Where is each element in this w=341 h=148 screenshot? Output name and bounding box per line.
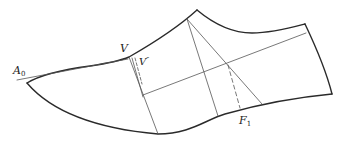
peak-line-1 bbox=[187, 19, 218, 116]
shoe-outline-bottom bbox=[27, 83, 332, 134]
label-f1-sub: 1 bbox=[247, 120, 251, 128]
peak-line-2 bbox=[187, 19, 262, 104]
label-a0: A0 bbox=[13, 65, 25, 78]
shoe-pattern-diagram bbox=[0, 0, 341, 148]
shoe-outline-top-front bbox=[27, 10, 197, 83]
label-v-prime-sup: ″ bbox=[146, 55, 149, 64]
a0-reference-line bbox=[17, 59, 128, 80]
label-v-main: V bbox=[120, 42, 128, 55]
label-v: V bbox=[120, 43, 128, 54]
label-a0-sub: 0 bbox=[21, 70, 25, 78]
shoe-outline-heel bbox=[305, 24, 332, 94]
f1-dashed-line bbox=[228, 65, 240, 108]
label-f1: F1 bbox=[239, 115, 251, 128]
v-line bbox=[129, 57, 158, 134]
centre-line bbox=[143, 33, 306, 95]
label-a0-main: A bbox=[13, 64, 21, 77]
label-f1-main: F bbox=[239, 114, 247, 127]
label-v-prime: V″ bbox=[139, 56, 149, 67]
shoe-outline-top-back bbox=[197, 10, 305, 33]
